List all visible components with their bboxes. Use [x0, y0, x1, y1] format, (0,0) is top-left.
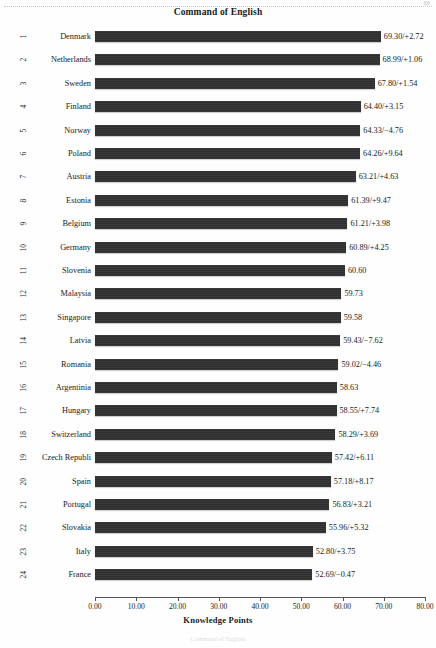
bar-track: 64.26/+9.64 [95, 142, 436, 165]
chart-row: 10Germany60.89/+4.25 [0, 236, 436, 259]
chart-row: 21Portugal56.83/+3.21 [0, 493, 436, 516]
bar-value-label: 57.42/+6.11 [332, 446, 374, 469]
bar-track: 56.83/+3.21 [95, 493, 436, 516]
x-axis-tick-label: 10.00 [116, 602, 156, 611]
chart-row: 24France52.69/−0.47 [0, 563, 436, 586]
data-bar [95, 242, 346, 253]
data-bar [95, 171, 356, 182]
country-label: Argentinia [24, 376, 91, 399]
data-bar [95, 382, 337, 393]
bar-track: 60.89/+4.25 [95, 236, 436, 259]
x-axis-tick [136, 597, 137, 601]
x-axis-tick-label: 60.00 [323, 602, 363, 611]
country-label: Hungary [24, 399, 91, 422]
x-axis-tick [95, 597, 96, 601]
x-axis-tick [178, 597, 179, 601]
x-axis-tick [425, 597, 426, 601]
chart-row: 9Belgium61.21/+3.98 [0, 212, 436, 235]
x-axis-tick-label: 0.00 [75, 602, 115, 611]
bar-track: 61.39/+9.47 [95, 189, 436, 212]
bar-value-label: 52.80/+3.75 [313, 540, 356, 563]
bar-value-label: 57.18/+8.17 [331, 470, 374, 493]
country-label: Italy [24, 540, 91, 563]
bar-track: 52.80/+3.75 [95, 540, 436, 563]
bar-track: 67.80/+1.54 [95, 72, 436, 95]
chart-row: 7Austria63.21/+4.63 [0, 165, 436, 188]
data-bar [95, 546, 313, 557]
bar-track: 68.99/+1.06 [95, 48, 436, 71]
x-axis-tick [343, 597, 344, 601]
chart-row: 1Denmark69.30/+2.72 [0, 25, 436, 48]
country-label: Estonia [24, 189, 91, 212]
data-bar [95, 101, 361, 112]
bar-track: 64.40/+3.15 [95, 95, 436, 118]
data-bar [95, 218, 347, 229]
chart-row: 13Singapore59.58 [0, 306, 436, 329]
country-label: Malaysia [24, 282, 91, 305]
bar-track: 55.96/+5.32 [95, 516, 436, 539]
chart-row: 16Argentinia58.63 [0, 376, 436, 399]
data-bar [95, 522, 326, 533]
bar-value-label: 58.29/+3.69 [335, 423, 378, 446]
bar-track: 57.42/+6.11 [95, 446, 436, 469]
bar-value-label: 59.58 [341, 306, 362, 329]
data-bar [95, 265, 345, 276]
data-bar [95, 125, 360, 136]
bar-value-label: 59.73 [341, 282, 362, 305]
chart-row: 6Poland64.26/+9.64 [0, 142, 436, 165]
bar-track: 69.30/+2.72 [95, 25, 436, 48]
chart-row: 22Slovakia55.96/+5.32 [0, 516, 436, 539]
bar-track: 52.69/−0.47 [95, 563, 436, 586]
page-folio: 69 [423, 0, 430, 6]
country-label: Singapore [24, 306, 91, 329]
country-label: Czech Republi [24, 446, 91, 469]
country-label: Slovenia [24, 259, 91, 282]
bar-value-label: 56.83/+3.21 [329, 493, 372, 516]
x-axis-tick-label: 50.00 [281, 602, 321, 611]
bar-chart-plot-area: 1Denmark69.30/+2.722Netherlands68.99/+1.… [0, 25, 436, 593]
chart-row: 8Estonia61.39/+9.47 [0, 189, 436, 212]
bar-value-label: 63.21/+4.63 [356, 165, 399, 188]
bar-value-label: 58.63 [337, 376, 358, 399]
x-axis-tick-label: 40.00 [240, 602, 280, 611]
data-bar [95, 312, 341, 323]
country-label: Portugal [24, 493, 91, 516]
chart-title: Command of English [0, 7, 436, 17]
x-axis-tick [384, 597, 385, 601]
country-label: Norway [24, 119, 91, 142]
chart-row: 18Switzerland58.29/+3.69 [0, 423, 436, 446]
chart-row: 14Latvia59.43/−7.62 [0, 329, 436, 352]
country-label: Netherlands [24, 48, 91, 71]
data-bar [95, 288, 341, 299]
x-axis-tick-label: 80.00 [405, 602, 436, 611]
bar-value-label: 60.89/+4.25 [346, 236, 389, 259]
page-footnote: Command of English [0, 636, 436, 642]
data-bar [95, 476, 331, 487]
data-bar [95, 335, 340, 346]
x-axis-tick [301, 597, 302, 601]
bar-value-label: 64.26/+9.64 [360, 142, 403, 165]
data-bar [95, 78, 375, 89]
data-bar [95, 31, 381, 42]
bar-value-label: 59.43/−7.62 [340, 329, 383, 352]
country-label: Switzerland [24, 423, 91, 446]
bar-track: 61.21/+3.98 [95, 212, 436, 235]
chart-row: 3Sweden67.80/+1.54 [0, 72, 436, 95]
country-label: France [24, 563, 91, 586]
bar-track: 60.60 [95, 259, 436, 282]
bar-value-label: 61.39/+9.47 [348, 189, 391, 212]
data-bar [95, 429, 335, 440]
chart-page: 69 Command of English 1Denmark69.30/+2.7… [0, 0, 436, 648]
data-bar [95, 359, 338, 370]
bar-track: 59.58 [95, 306, 436, 329]
bar-track: 59.73 [95, 282, 436, 305]
bar-track: 64.33/−4.76 [95, 119, 436, 142]
x-axis-tick [219, 597, 220, 601]
country-label: Sweden [24, 72, 91, 95]
bar-value-label: 60.60 [345, 259, 366, 282]
chart-row: 19Czech Republi57.42/+6.11 [0, 446, 436, 469]
data-bar [95, 54, 380, 65]
data-bar [95, 452, 332, 463]
data-bar [95, 405, 337, 416]
bar-track: 59.43/−7.62 [95, 329, 436, 352]
